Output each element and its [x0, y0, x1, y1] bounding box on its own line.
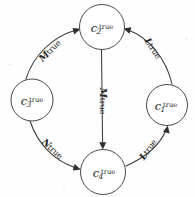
edge-c4-c1	[126, 125, 170, 166]
node-circle-c4[interactable]	[81, 150, 126, 195]
diagram-canvas: c2true c1true c4true c3true Mtrue Ltrue …	[0, 0, 195, 197]
edge-c2-c4	[99, 50, 106, 150]
node-circle-c2[interactable]	[80, 5, 125, 50]
edge-c3-c4-path	[30, 121, 76, 168]
edge-c3-c2	[26, 28, 81, 79]
node-layer	[11, 5, 188, 195]
edge-c2-c4-path	[102, 50, 103, 144]
edge-c2-c4-arrowhead	[99, 142, 106, 149]
edge-c3-c2-path	[26, 30, 76, 79]
edge-c3-c4-arrowhead	[73, 164, 81, 171]
edge-c3-c4	[30, 121, 81, 170]
edge-c4-c1-path	[126, 130, 166, 166]
diagram-graphics	[0, 0, 195, 197]
edge-c1-c2	[123, 27, 172, 84]
edge-c4-c1-arrowhead	[163, 125, 170, 133]
edge-c1-c2-path	[128, 30, 172, 84]
node-circle-c3[interactable]	[11, 79, 53, 121]
node-circle-c1[interactable]	[147, 85, 188, 126]
